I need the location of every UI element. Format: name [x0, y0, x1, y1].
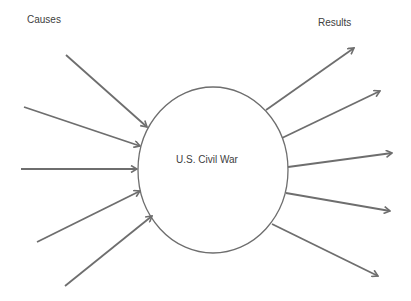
- results-heading: Results: [318, 17, 351, 28]
- causes-heading: Causes: [27, 14, 61, 25]
- diagram-graphics: [0, 0, 411, 301]
- result-arrow-1: [266, 48, 354, 110]
- cause-arrow-5: [65, 216, 152, 286]
- center-circle: [138, 87, 288, 253]
- cause-arrow-2: [24, 107, 140, 146]
- cause-arrows: [21, 55, 152, 286]
- result-arrow-4: [286, 193, 390, 211]
- center-topic-label: U.S. Civil War: [176, 154, 238, 165]
- cause-arrow-4: [37, 191, 140, 242]
- cause-effect-diagram: Causes Results U.S. Civil War: [0, 0, 411, 301]
- result-arrow-2: [282, 91, 380, 138]
- result-arrow-5: [272, 224, 378, 276]
- result-arrow-3: [288, 153, 392, 167]
- cause-arrow-1: [66, 55, 147, 127]
